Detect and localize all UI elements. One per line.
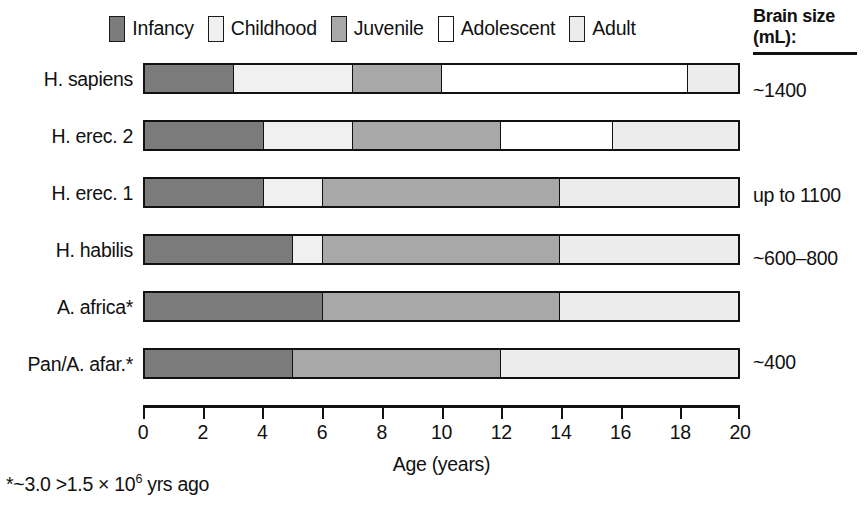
life-history-bar bbox=[143, 120, 740, 151]
x-axis-tick-label: 0 bbox=[138, 421, 149, 443]
x-axis-tick bbox=[621, 408, 623, 419]
bar-segment-juvenile bbox=[293, 350, 501, 377]
brain-size-value: up to 1100 bbox=[753, 185, 841, 205]
bar-segment-adult bbox=[613, 122, 738, 149]
x-axis-tick-label: 6 bbox=[317, 421, 328, 443]
bar-segment-childhood bbox=[264, 122, 353, 149]
x-axis-tick-label: 20 bbox=[729, 421, 750, 443]
x-axis-title: Age (years) bbox=[143, 453, 740, 476]
footnote-prefix: *~3.0 >1.5 × 10 bbox=[6, 473, 135, 495]
x-axis-tick-label: 16 bbox=[610, 421, 631, 443]
x-axis-tick-label: 10 bbox=[431, 421, 452, 443]
x-axis-tick-label: 4 bbox=[257, 421, 268, 443]
x-axis-tick bbox=[382, 408, 384, 419]
life-history-bar bbox=[143, 348, 740, 379]
x-axis: 02468101214161820 bbox=[143, 405, 740, 451]
footnote: *~3.0 >1.5 × 106 yrs ago bbox=[6, 472, 209, 496]
bar-segment-infancy bbox=[145, 350, 293, 377]
species-label: A. africa* bbox=[0, 290, 133, 324]
bar-segment-juvenile bbox=[323, 293, 560, 320]
life-history-bar bbox=[143, 63, 740, 94]
bar-segment-adult bbox=[688, 65, 738, 92]
bar-segment-infancy bbox=[145, 65, 234, 92]
bar-segment-infancy bbox=[145, 236, 293, 263]
species-label: H. erec. 1 bbox=[0, 176, 133, 210]
x-axis-tick-label: 2 bbox=[197, 421, 208, 443]
bar-segment-childhood bbox=[264, 179, 323, 206]
x-axis-tick-label: 12 bbox=[491, 421, 512, 443]
x-axis-tick-label: 18 bbox=[670, 421, 691, 443]
x-axis-tick bbox=[322, 408, 324, 419]
x-axis-tick bbox=[561, 408, 563, 419]
brain-size-value: ~400 bbox=[753, 352, 796, 372]
bar-segment-juvenile bbox=[323, 179, 560, 206]
bar-segment-adult bbox=[560, 236, 738, 263]
species-label: H. sapiens bbox=[0, 62, 133, 96]
brain-size-value: ~600–800 bbox=[753, 248, 838, 268]
species-label: H. habilis bbox=[0, 233, 133, 267]
x-axis-tick-label: 14 bbox=[550, 421, 571, 443]
x-axis-tick bbox=[738, 408, 740, 419]
chart-row: Pan/A. afar.* bbox=[0, 347, 864, 381]
chart-row: H. sapiens bbox=[0, 62, 864, 96]
life-history-bar bbox=[143, 291, 740, 322]
species-label: Pan/A. afar.* bbox=[0, 347, 133, 381]
chart-row: A. africa* bbox=[0, 290, 864, 324]
bar-segment-adult bbox=[501, 350, 738, 377]
bar-segment-childhood bbox=[234, 65, 353, 92]
bar-segment-adult bbox=[560, 293, 738, 320]
brain-size-value: ~1400 bbox=[753, 80, 806, 100]
bar-segment-infancy bbox=[145, 122, 264, 149]
bar-segment-juvenile bbox=[323, 236, 560, 263]
bar-segment-juvenile bbox=[353, 122, 501, 149]
bar-segment-adolescent bbox=[442, 65, 688, 92]
chart-row: H. habilis bbox=[0, 233, 864, 267]
x-axis-tick bbox=[442, 408, 444, 419]
bar-segment-childhood bbox=[293, 236, 323, 263]
chart-row: H. erec. 2 bbox=[0, 119, 864, 153]
chart-row: H. erec. 1 bbox=[0, 176, 864, 210]
x-axis-tick-label: 8 bbox=[377, 421, 388, 443]
bar-segment-infancy bbox=[145, 293, 323, 320]
x-axis-tick bbox=[680, 408, 682, 419]
bar-segment-adult bbox=[560, 179, 738, 206]
x-axis-tick bbox=[203, 408, 205, 419]
footnote-suffix: yrs ago bbox=[142, 473, 209, 495]
bar-segment-adolescent bbox=[501, 122, 614, 149]
life-history-bar bbox=[143, 177, 740, 208]
species-label: H. erec. 2 bbox=[0, 119, 133, 153]
bar-segment-juvenile bbox=[353, 65, 442, 92]
x-axis-tick bbox=[501, 408, 503, 419]
x-axis-tick bbox=[143, 408, 145, 419]
life-history-bar bbox=[143, 234, 740, 265]
bar-segment-infancy bbox=[145, 179, 264, 206]
x-axis-tick bbox=[262, 408, 264, 419]
